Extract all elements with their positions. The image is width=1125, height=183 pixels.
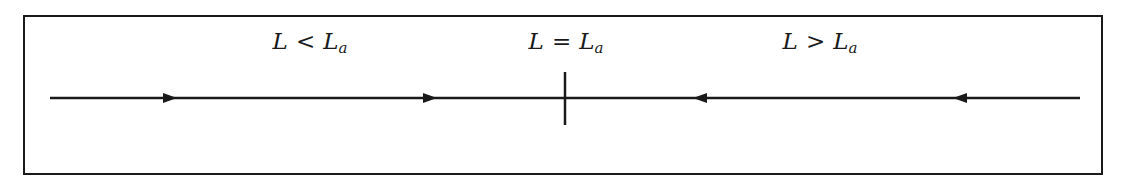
arrow-left-icon [953, 93, 967, 103]
label-operator: > [806, 28, 825, 54]
arrow-left-icon [693, 93, 707, 103]
label-rhs: L [833, 28, 848, 54]
label-operator: < [296, 28, 315, 54]
arrow-right-icon [163, 93, 177, 103]
label-rhs: L [323, 28, 338, 54]
label-greater-than: L>La [783, 28, 858, 57]
label-rhs: L [579, 28, 594, 54]
label-lhs: L [783, 28, 798, 54]
arrow-right-icon [423, 93, 437, 103]
label-subscript: a [338, 39, 347, 57]
label-lhs: L [273, 28, 288, 54]
label-equal: L=La [529, 28, 604, 57]
label-operator: = [552, 28, 571, 54]
label-subscript: a [594, 39, 603, 57]
label-lhs: L [529, 28, 544, 54]
label-subscript: a [848, 39, 857, 57]
label-less-than: L<La [273, 28, 348, 57]
